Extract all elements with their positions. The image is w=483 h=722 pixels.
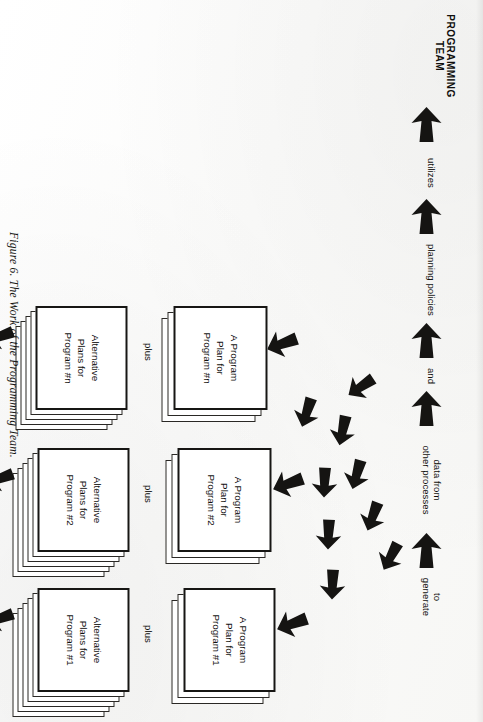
connector-label-plus-program-n: plus (142, 332, 153, 372)
plan-sheet-text: A Program Plan for Program #1 (208, 590, 249, 690)
flow-arrow-1 (409, 104, 443, 144)
alt-sheet-text: Alternative Plans for Program #2 (62, 450, 103, 550)
fan-arrow-g (316, 567, 347, 602)
fan-arrow-d (324, 411, 360, 450)
fan-arrow-b (352, 496, 392, 538)
step-label-and: and (425, 362, 436, 390)
plan-sheet-front: A Program Plan for Program #2 (177, 448, 271, 552)
alt-sheet-text: Alternative Plans for Program #1 (62, 590, 103, 690)
plan-stack-program-1: A Program Plan for Program #1 (167, 588, 275, 710)
flow-arrow-5 (409, 530, 443, 570)
plan-sheet-front: A Program Plan for Program #n (173, 306, 267, 410)
fan-arrow-c (337, 455, 375, 496)
alt-sheet-front: Alternative Plans for Program #1 (37, 588, 129, 692)
plan-sheet-text: A Program Plan for Program #2 (203, 450, 244, 550)
connector-label-plus-program-2: plus (142, 474, 153, 514)
alt-sheet-front: Alternative Plans for Program #2 (37, 448, 129, 552)
diagram-canvas: PROGRAMMING TEAM utilizes planning polic… (0, 0, 483, 722)
figure-caption: Figure 6. The Work of the Programming Te… (7, 232, 19, 458)
fan-arrow-e (308, 465, 339, 500)
plan-stack-program-n: A Program Plan for Program #n (155, 306, 267, 428)
plan-sheet-text: A Program Plan for Program #n (199, 308, 240, 408)
alternatives-stack-program-n: Alternative Plans for Program #n (11, 306, 127, 438)
step-label-planning-policies: planning policies (425, 238, 436, 322)
flow-arrow-4 (409, 388, 443, 428)
plan-stack-program-2: A Program Plan for Program #2 (161, 448, 271, 570)
step-label-data-from-other-processes: data from other processes (419, 428, 442, 532)
plan-sheet-front: A Program Plan for Program #1 (183, 588, 275, 692)
alt-sheet-text: Alternative Plans for Program #n (60, 308, 101, 408)
flow-arrow-3 (409, 320, 443, 360)
alternatives-stack-program-2: Alternative Plans for Program #2 (11, 448, 129, 580)
source-label-programming-team: PROGRAMMING TEAM (432, 8, 455, 104)
connector-label-plus-program-1: plus (142, 614, 153, 654)
step-label-utilizes: utilizes (425, 148, 436, 198)
scanned-figure-page: PROGRAMMING TEAM utilizes planning polic… (0, 0, 483, 722)
fan-arrow-i (338, 365, 383, 409)
flow-arrow-2 (409, 196, 443, 236)
alt-sheet-front: Alternative Plans for Program #n (35, 306, 127, 410)
alternatives-stack-program-1: Alternative Plans for Program #1 (11, 588, 129, 720)
rotated-diagram-wrapper: PROGRAMMING TEAM utilizes planning polic… (0, 0, 483, 722)
step-label-to-generate: to generate (419, 570, 442, 624)
fan-arrow-f (312, 517, 343, 552)
fan-arrow-h (286, 392, 325, 434)
fan-arrow-a (369, 535, 411, 579)
